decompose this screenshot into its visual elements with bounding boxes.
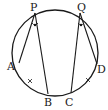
chord-QD [80,13,97,64]
label-B: B [44,96,52,109]
circle-diagram: PQABCD [0,0,108,110]
chord-QC [71,13,80,93]
label-A: A [6,60,16,73]
angle-marks [32,23,84,26]
arc-tick-marks [28,78,90,83]
label-C: C [65,96,73,109]
label-P: P [30,1,38,14]
circle [12,10,98,96]
chord-PB [35,13,48,94]
label-D: D [97,63,106,76]
label-Q: Q [77,1,86,14]
tick-mark-AB [28,79,32,83]
diagram-canvas: PQABCD [0,0,108,110]
